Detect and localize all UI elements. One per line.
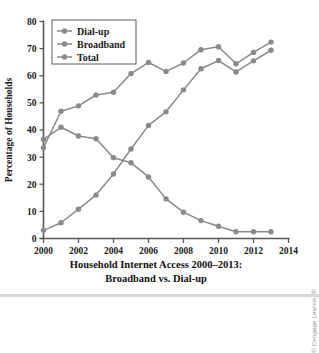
y-tick-label: 80 [27,17,37,27]
chart-legend: Dial-upBroadbandTotal [52,20,136,64]
series-polyline [44,127,272,231]
data-point [268,229,273,234]
data-point [58,125,63,130]
legend-label: Dial-up [77,26,110,37]
data-point [76,207,81,212]
data-point [128,146,133,151]
y-tick-label: 70 [27,44,37,54]
data-point [251,58,256,63]
legend-swatch-marker [62,28,67,33]
data-point [198,218,203,223]
data-point [93,136,98,141]
x-tick-label: 2004 [104,246,123,256]
x-tick-label: 2008 [174,246,193,256]
line-chart-svg: 01020304050607080 2000200220042006200820… [0,0,319,258]
y-axis-title-text: Percentage of Households [4,78,14,183]
data-point [76,103,81,108]
x-tick-label: 2014 [279,246,298,256]
y-tick-label: 30 [27,153,37,163]
legend-swatch-marker [62,41,67,46]
y-tick-label: 40 [27,125,37,135]
y-tick-label: 60 [27,71,37,81]
data-point [268,39,273,44]
data-point [93,92,98,97]
x-axis: 20002002200420062008201020122014 [34,239,298,256]
data-point [41,145,46,150]
data-point [181,87,186,92]
caption-line-2: Broadband vs. Dial-up [30,272,282,286]
copyright-credit: © Cengage Learning® [311,289,317,353]
data-point [198,47,203,52]
y-axis-title: Percentage of Households [4,78,14,183]
data-point [198,66,203,71]
series-broadband [41,48,274,234]
x-tick-label: 2012 [244,246,263,256]
data-point [233,69,238,74]
data-point [251,229,256,234]
data-point [41,137,46,142]
data-point [163,109,168,114]
x-tick-label: 2002 [69,246,88,256]
x-tick-label: 2010 [209,246,228,256]
data-point [128,71,133,76]
x-tick-label: 2000 [34,246,53,256]
y-axis: 01020304050607080 [27,17,44,244]
data-point [41,228,46,233]
y-tick-label: 20 [27,180,37,190]
data-point [181,209,186,214]
data-point [216,44,221,49]
data-point [268,48,273,53]
data-series-group [41,39,274,234]
data-point [111,171,116,176]
data-point [181,60,186,65]
data-point [251,50,256,55]
data-point [111,90,116,95]
figure-caption: Household Internet Access 2000–2013: Bro… [30,258,282,286]
x-tick-label: 2006 [139,246,158,256]
data-point [233,229,238,234]
data-point [146,60,151,65]
data-point [216,58,221,63]
data-point [93,192,98,197]
data-point [163,196,168,201]
y-tick-label: 10 [27,207,37,217]
data-point [163,69,168,74]
y-tick-label: 50 [27,98,37,108]
data-point [128,160,133,165]
bottom-divider [0,294,319,297]
legend-swatch-marker [62,54,67,59]
series-dial-up [41,125,274,235]
data-point [58,220,63,225]
data-point [146,174,151,179]
chart-plot-area: 01020304050607080 2000200220042006200820… [0,0,319,258]
data-point [216,224,221,229]
data-point [58,109,63,114]
caption-line-1: Household Internet Access 2000–2013: [30,258,282,272]
data-point [111,155,116,160]
legend-label: Broadband [77,39,126,50]
y-tick-label: 0 [32,234,37,244]
data-point [146,123,151,128]
data-point [233,61,238,66]
series-polyline [44,50,272,230]
data-point [76,133,81,138]
legend-label: Total [77,52,99,63]
